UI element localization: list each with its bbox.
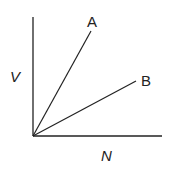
y-axis-label: V [10,69,20,84]
line-b-label: B [141,73,151,88]
line-a-label: A [87,14,97,29]
diagram: A B V N [0,0,173,173]
x-axis-label: N [101,148,112,163]
